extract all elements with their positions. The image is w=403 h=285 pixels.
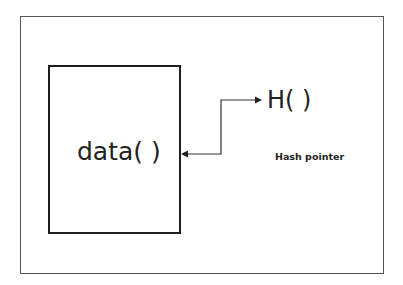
hash-function-label: H( ) — [267, 88, 311, 112]
data-block-label: data( ) — [77, 139, 161, 164]
hash-pointer-label: Hash pointer — [275, 152, 344, 162]
